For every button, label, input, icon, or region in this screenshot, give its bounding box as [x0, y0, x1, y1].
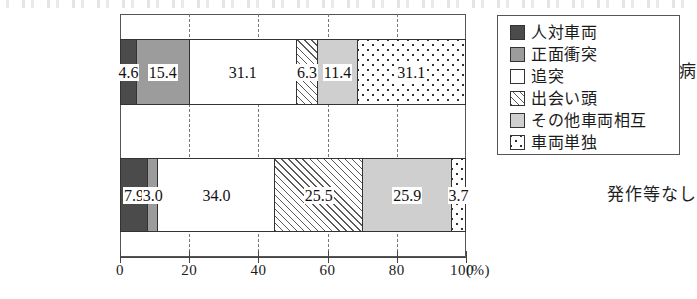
legend-item-0: 人対車両	[510, 21, 679, 43]
bar-row-0: 4.6 15.4 31.1 6.3 11.4 31.1	[120, 39, 466, 105]
scan-artifact-strip	[0, 0, 697, 8]
x-tick-label-40: 40	[228, 262, 288, 278]
segment-value-1-1: 3.0	[142, 187, 164, 204]
legend-item-1: 正面衝突	[510, 43, 679, 65]
segment-value-1-2: 34.0	[201, 187, 231, 204]
legend-swatch-white-icon	[510, 69, 525, 84]
segment-1-1: 3.0	[148, 159, 158, 231]
legend-label-2: 追突	[531, 68, 564, 85]
legend-swatch-solid-mid-icon	[510, 47, 525, 62]
segment-0-1: 15.4	[137, 40, 190, 104]
segment-value-0-0: 4.6	[117, 64, 139, 81]
segment-1-2: 34.0	[158, 159, 275, 231]
segment-0-5: 31.1	[358, 40, 465, 104]
category-label-1: 発作等なし	[585, 186, 697, 204]
legend-swatch-light-icon	[510, 113, 525, 128]
segment-1-4: 25.9	[363, 159, 452, 231]
x-tick-label-60: 60	[298, 262, 358, 278]
legend-label-0: 人対車両	[531, 24, 597, 41]
legend-label-4: その他車両相互	[531, 112, 647, 129]
segment-value-0-4: 11.4	[323, 64, 352, 81]
segment-1-3: 25.5	[275, 159, 363, 231]
segment-value-1-4: 25.9	[392, 187, 422, 204]
segment-value-1-3: 25.5	[304, 187, 334, 204]
x-axis-unit-label: (%)	[466, 262, 516, 278]
segment-value-0-1: 15.4	[148, 64, 178, 81]
legend-item-3: 出会い頭	[510, 87, 679, 109]
legend-swatch-solid-dark-icon	[510, 25, 525, 40]
legend-item-2: 追突	[510, 65, 679, 87]
x-tick-label-80: 80	[367, 262, 427, 278]
stacked-bar-chart: 発作・急病 4.6 15.4 31.1 6.3 11.4 31.1 発作等なし …	[0, 0, 697, 299]
legend: 人対車両 正面衝突 追突 出会い頭 その他車両相互 車両単独	[497, 15, 680, 155]
segment-value-1-5: 3.7	[448, 187, 470, 204]
legend-label-1: 正面衝突	[531, 46, 597, 63]
legend-item-5: 車両単独	[510, 131, 679, 153]
x-tick-label-20: 20	[159, 262, 219, 278]
segment-value-0-2: 31.1	[228, 64, 258, 81]
segment-0-3: 6.3	[297, 40, 319, 104]
legend-item-4: その他車両相互	[510, 109, 679, 131]
legend-swatch-hatch-icon	[510, 91, 525, 106]
x-axis-line	[120, 257, 466, 258]
legend-label-3: 出会い頭	[531, 90, 597, 107]
segment-0-2: 31.1	[190, 40, 297, 104]
segment-value-0-5: 31.1	[396, 64, 426, 81]
bar-row-1: 7.9 3.0 34.0 25.5 25.9 3.7	[120, 158, 466, 232]
segment-1-5: 3.7	[452, 159, 465, 231]
segment-0-0: 4.6	[121, 40, 137, 104]
segment-0-4: 11.4	[318, 40, 357, 104]
legend-swatch-dots-icon	[510, 135, 525, 150]
x-tick-label-0: 0	[90, 262, 150, 278]
legend-label-5: 車両単独	[531, 134, 597, 151]
segment-value-0-3: 6.3	[296, 64, 318, 81]
